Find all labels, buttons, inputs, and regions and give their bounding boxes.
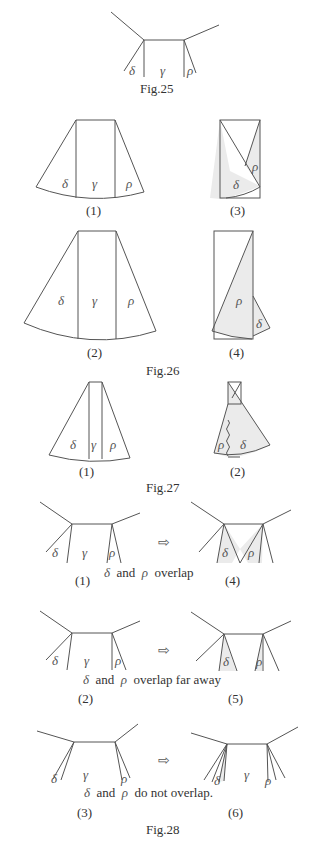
delta-label: δ (222, 546, 228, 559)
delta-label: δ (129, 64, 135, 77)
fig28-panel5-label: (5) (228, 692, 243, 705)
fig26-panel3-label: (3) (230, 204, 245, 217)
delta-label: δ (233, 178, 239, 191)
fig26-caption: Fig.26 (146, 364, 180, 377)
rho-label: ρ (128, 294, 134, 307)
gamma-label: γ (84, 654, 89, 667)
gamma-label: γ (91, 438, 96, 451)
rho-label: ρ (126, 177, 132, 190)
rho-label: ρ (109, 546, 115, 559)
delta-label: δ (240, 438, 246, 451)
fig28-caption: Fig.28 (146, 823, 180, 836)
fig26-panel2-label: (2) (87, 346, 102, 359)
gamma-label: γ (244, 768, 249, 781)
fig26-panel1-label: (1) (86, 204, 101, 217)
gamma-label: γ (83, 768, 88, 781)
rho-label: ρ (248, 546, 254, 559)
delta-label: δ (52, 654, 58, 667)
rho-label: ρ (265, 774, 271, 787)
fig26-panel2-diagram (24, 231, 156, 340)
fig28-row3-description: δ and ρ do not overlap. (84, 786, 213, 799)
fig28-panel3-label: (3) (77, 806, 92, 819)
fig28-panel4-diagram (191, 502, 291, 563)
fig27-caption: Fig.27 (146, 481, 180, 494)
gamma-label: γ (160, 64, 165, 77)
rho-label: ρ (121, 772, 127, 785)
gamma-label: γ (92, 294, 97, 307)
fig25-caption: Fig.25 (140, 82, 174, 95)
delta-label: δ (62, 177, 68, 190)
delta-label: δ (70, 438, 76, 451)
delta-label: δ (52, 546, 58, 559)
gamma-label: γ (92, 177, 97, 190)
fig28-row2-description: δ and ρ overlap far away (83, 673, 221, 686)
delta-label: δ (214, 774, 220, 787)
delta-label: δ (58, 294, 64, 307)
rho-label: ρ (252, 160, 258, 173)
figures-drawing (0, 0, 311, 845)
rho-label: ρ (187, 64, 193, 77)
implies-arrow-icon: ⇨ (158, 754, 170, 768)
rho-label: ρ (115, 654, 121, 667)
fig27-panel2-label: (2) (230, 465, 245, 478)
rho-label: ρ (236, 294, 242, 307)
gamma-label: γ (82, 546, 87, 559)
rho-label: ρ (256, 655, 262, 668)
fig26-panel4-label: (4) (229, 346, 244, 359)
fig27-panel1-diagram (49, 382, 130, 461)
delta-label: δ (223, 655, 229, 668)
rho-label: ρ (110, 438, 116, 451)
implies-arrow-icon: ⇨ (158, 644, 170, 658)
fig28-row1-description: δ and ρ overlap (104, 566, 194, 579)
rho-label: ρ (218, 438, 224, 451)
implies-arrow-icon: ⇨ (158, 536, 170, 550)
delta-label: δ (51, 772, 57, 785)
delta-label: δ (256, 317, 262, 330)
fig28-panel6-label: (6) (228, 806, 243, 819)
fig28-panel2-label: (2) (78, 692, 93, 705)
fig28-panel5-diagram (191, 612, 291, 671)
fig28-panel4-label: (4) (225, 574, 240, 587)
fig28-panel1-label: (1) (75, 574, 90, 587)
fig27-panel1-label: (1) (79, 465, 94, 478)
